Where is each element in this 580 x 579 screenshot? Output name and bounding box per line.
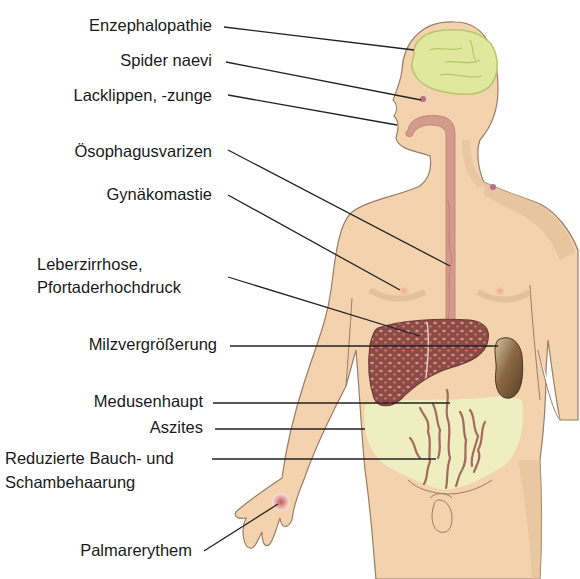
label-gynecomastia: Gynäkomastie (107, 184, 212, 205)
nipple-left (399, 286, 409, 296)
label-lacquer-lips: Lacklippen, -zunge (73, 85, 212, 106)
label-liver-cirrhosis-line1: Leberzirrhose, (37, 254, 142, 275)
label-reduced-hair-line2: Schambehaarung (5, 472, 135, 493)
palmar-erythema-spot (272, 493, 290, 511)
leader-lacquer-lips (228, 95, 397, 125)
label-spider-naevi: Spider naevi (120, 50, 212, 71)
label-encephalopathy: Enzephalopathie (89, 15, 212, 36)
label-liver-cirrhosis-line2: Pfortaderhochdruck (37, 277, 181, 298)
label-ascites: Aszites (150, 417, 203, 438)
spleen (495, 338, 523, 398)
label-palmar-erythema: Palmarerythem (80, 540, 192, 561)
leader-encephalopathy (224, 27, 414, 50)
label-splenomegaly: Milzvergrößerung (89, 334, 217, 355)
nipple-right (495, 286, 505, 296)
label-reduced-hair-line1: Reduzierte Bauch- und (5, 448, 174, 469)
liver-cirrhosis-diagram: Enzephalopathie Spider naevi Lacklippen,… (0, 0, 580, 579)
spider-naevus-shoulder (490, 184, 496, 190)
leader-spider-naevi (226, 62, 421, 100)
spider-naevus-face (420, 96, 426, 102)
label-caput-medusae: Medusenhaupt (94, 391, 203, 412)
label-esophageal-varices: Ösophagusvarizen (74, 141, 212, 162)
